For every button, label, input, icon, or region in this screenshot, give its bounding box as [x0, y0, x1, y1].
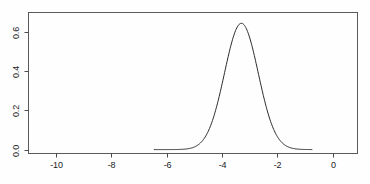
x-tick-label: -8 [108, 160, 116, 170]
x-tick-label: -4 [219, 160, 227, 170]
x-tick-label: -2 [274, 160, 282, 170]
y-tick-label: 0.4 [11, 66, 21, 78]
x-tick-label: 0 [331, 160, 336, 170]
plot-frame [29, 13, 358, 154]
x-tick-label: -6 [164, 160, 172, 170]
y-axis-ticks [25, 33, 29, 151]
data-series-group [154, 23, 312, 149]
x-tick-label: -10 [50, 160, 62, 170]
plot-frame-box [29, 13, 358, 154]
y-tick-label: 0.6 [11, 27, 21, 39]
plot-canvas [0, 0, 370, 184]
x-axis-ticks [57, 154, 334, 158]
density-plot-figure: -10-8-6-4-20 0.00.20.40.6 [0, 0, 370, 184]
density-curve-path [154, 23, 312, 149]
y-tick-label: 0.0 [11, 145, 21, 157]
y-tick-label: 0.2 [11, 105, 21, 117]
